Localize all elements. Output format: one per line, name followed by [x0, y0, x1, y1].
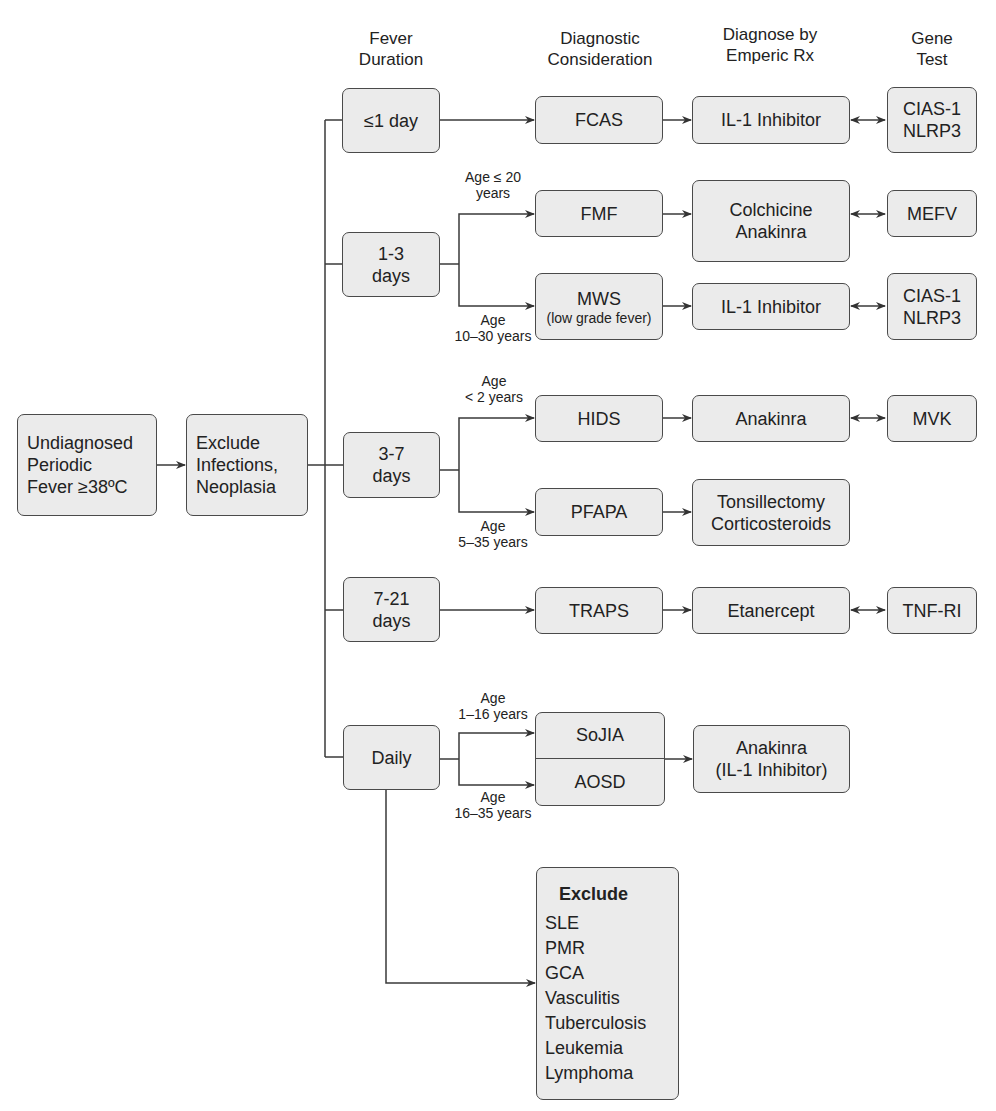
age-label-fmf: Age ≤ 20 years: [452, 169, 534, 201]
treatment-traps-box: Etanercept: [692, 587, 850, 634]
treatment-mws-box: IL-1 Inhibitor: [692, 283, 850, 330]
treatment-pfapa-box: Tonsillectomy Corticosteroids: [692, 479, 850, 546]
exclude-item: Tuberculosis: [545, 1011, 678, 1036]
fever-diagnosis-flowchart: Fever Duration Diagnostic Consideration …: [0, 0, 996, 1111]
exclude-infections-box: Exclude Infections, Neoplasia: [186, 414, 308, 516]
diagnosis-fmf-box: FMF: [535, 190, 663, 237]
gene-mws-box: CIAS-1 NLRP3: [887, 273, 977, 340]
age-label-mws: Age 10–30 years: [448, 312, 538, 344]
diagnosis-mws-box: MWS (low grade fever): [535, 273, 663, 340]
exclude-item: Vasculitis: [545, 986, 678, 1011]
age-label-pfapa: Age 5–35 years: [450, 518, 536, 550]
exclude-conditions-box: Exclude SLE PMR GCA Vasculitis Tuberculo…: [536, 867, 679, 1100]
diagnosis-aosd: AOSD: [536, 759, 664, 805]
diagnosis-sojia-aosd-box: SoJIA AOSD: [535, 712, 665, 806]
exclude-item: Lymphoma: [545, 1061, 678, 1086]
diagnosis-hids-box: HIDS: [535, 395, 663, 442]
age-label-hids: Age < 2 years: [452, 373, 536, 405]
age-label-aosd: Age 16–35 years: [446, 789, 540, 821]
diagnosis-fcas-box: FCAS: [535, 96, 663, 144]
gene-traps-box: TNF-RI: [887, 587, 977, 634]
duration-daily-box: Daily: [343, 725, 440, 790]
undiagnosed-fever-box: Undiagnosed Periodic Fever ≥38ºC: [17, 414, 157, 516]
connector-lines: [0, 0, 996, 1111]
treatment-fmf-box: Colchicine Anakinra: [692, 180, 850, 262]
header-diagnose-by-rx: Diagnose by Emperic Rx: [690, 24, 850, 66]
exclude-item: SLE: [545, 911, 678, 936]
diagnosis-traps-box: TRAPS: [535, 587, 663, 634]
age-label-sojia: Age 1–16 years: [450, 690, 536, 722]
header-fever-duration: Fever Duration: [340, 28, 442, 70]
duration-1-3-days-box: 1-3 days: [342, 232, 440, 297]
exclude-title: Exclude: [545, 882, 678, 907]
duration-7-21-days-box: 7-21 days: [343, 577, 440, 642]
diagnosis-pfapa-box: PFAPA: [535, 488, 663, 536]
exclude-item: GCA: [545, 961, 678, 986]
gene-fmf-box: MEFV: [887, 190, 977, 237]
gene-fcas-box: CIAS-1 NLRP3: [887, 87, 977, 153]
treatment-sojia-aosd-box: Anakinra (IL-1 Inhibitor): [693, 725, 850, 793]
exclude-item: PMR: [545, 936, 678, 961]
gene-hids-box: MVK: [887, 395, 977, 442]
header-diagnostic-consideration: Diagnostic Consideration: [530, 28, 670, 70]
treatment-hids-box: Anakinra: [692, 395, 850, 442]
diagnosis-sojia: SoJIA: [536, 713, 664, 759]
treatment-fcas-box: IL-1 Inhibitor: [692, 96, 850, 144]
duration-3-7-days-box: 3-7 days: [343, 432, 440, 498]
duration-1-day-box: ≤1 day: [342, 88, 440, 153]
header-gene-test: Gene Test: [885, 28, 979, 70]
exclude-item: Leukemia: [545, 1036, 678, 1061]
